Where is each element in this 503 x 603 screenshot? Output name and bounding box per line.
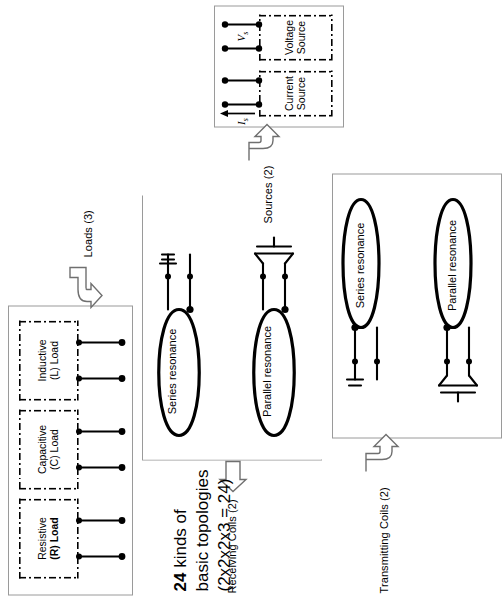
- title-line3: (2x2x2x3 = 24): [214, 469, 236, 591]
- loads-group-label: Loads (3): [82, 210, 94, 257]
- title-bold-count: 24: [171, 572, 190, 591]
- transmitting-coil-label-parallel: Parallel resonance: [446, 219, 458, 310]
- title-line1-rest: kinds of: [171, 509, 190, 572]
- title-line2: basic topologies: [192, 469, 214, 591]
- loads-panel: Resistive (R) Load Capacitive (C) Load I…: [8, 305, 133, 595]
- sources-group-label: Sources (2): [262, 165, 274, 223]
- sources-panel: Current Source Voltage Source Is: [214, 5, 344, 127]
- sources-callout-arrow: [250, 125, 284, 163]
- receiving-coil-label-series: Series resonance: [166, 328, 178, 414]
- load-terminal-wires: [9, 304, 134, 594]
- source-terminal-wires: Is Vs: [215, 4, 345, 126]
- transmitting-callout-arrow: [366, 435, 402, 475]
- voltage-source-symbol: Vs: [235, 31, 250, 41]
- receiving-coils-detail: Series resonance Parallel resonance: [143, 194, 323, 459]
- receiving-coil-label-parallel: Parallel resonance: [261, 325, 273, 416]
- transmitting-coils-panel: Series resonance Parallel resonance: [332, 173, 502, 438]
- receiving-coils-panel: Series resonance Parallel resonance Seri…: [142, 195, 322, 460]
- transmitting-group-label: Transmitting Coils (2): [378, 487, 390, 593]
- diagram-title: 24 kinds of basic topologies (2x2x2x3 = …: [170, 469, 235, 591]
- transmitting-coil-label-series: Series resonance: [354, 222, 366, 308]
- loads-callout-arrow: [72, 257, 106, 303]
- transmitting-coils-detail: Series resonance Parallel resonance: [333, 172, 503, 437]
- current-source-symbol: Is: [235, 118, 250, 126]
